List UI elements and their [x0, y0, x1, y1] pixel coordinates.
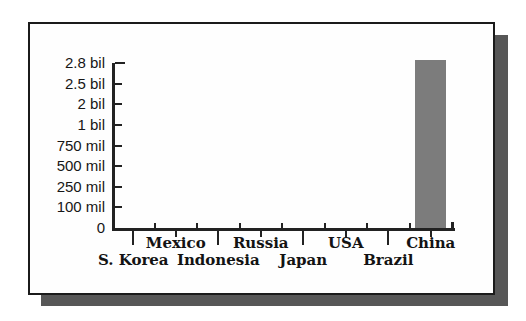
- x-category-label-russia: Russia: [233, 234, 289, 252]
- x-axis-boundary-tick: [324, 223, 326, 228]
- x-axis-boundary-tick: [366, 223, 368, 228]
- x-category-label-indonesia: Indonesia: [177, 251, 260, 269]
- x-axis-leader-tick: [302, 231, 304, 245]
- y-tick-label: 2.8 bil: [30, 54, 105, 72]
- x-category-label-mexico: Mexico: [146, 234, 206, 252]
- y-axis-tick: [115, 145, 122, 147]
- y-axis-tick: [115, 83, 122, 85]
- y-tick-label: 0: [30, 219, 105, 237]
- x-axis-leader-tick: [387, 231, 389, 245]
- x-category-label-s-korea: S. Korea: [98, 251, 169, 269]
- y-axis-tick: [115, 186, 122, 188]
- y-tick-label: 1 bil: [30, 116, 105, 134]
- x-category-label-usa: USA: [328, 234, 364, 252]
- y-tick-label: 100 mil: [30, 198, 105, 216]
- x-axis-leader-tick: [132, 231, 134, 245]
- bar-china: [415, 60, 446, 228]
- x-category-label-brazil: Brazil: [363, 251, 413, 269]
- x-axis-boundary-tick: [281, 223, 283, 228]
- y-axis-tick: [115, 124, 122, 126]
- x-axis-boundary-tick: [154, 223, 156, 228]
- x-axis-leader-tick: [217, 231, 219, 245]
- y-tick-label: 750 mil: [30, 137, 105, 155]
- page-background: 2.8 bil2.5 bil2 bil1 bil750 mil500 mil25…: [0, 0, 526, 321]
- y-axis-tick: [115, 62, 125, 64]
- x-axis-end-tick: [451, 222, 454, 228]
- x-axis-line: [112, 228, 455, 231]
- chart-panel: 2.8 bil2.5 bil2 bil1 bil750 mil500 mil25…: [28, 22, 495, 295]
- x-category-label-china: China: [406, 234, 455, 252]
- y-axis-tick: [115, 165, 122, 167]
- y-axis-tick: [115, 206, 122, 208]
- x-axis-boundary-tick: [239, 223, 241, 228]
- y-tick-label: 250 mil: [30, 178, 105, 196]
- x-category-label-japan: Japan: [279, 251, 327, 269]
- y-axis-tick: [115, 103, 122, 105]
- y-tick-label: 2 bil: [30, 95, 105, 113]
- x-axis-boundary-tick: [196, 223, 198, 228]
- x-axis-boundary-tick: [409, 223, 411, 228]
- y-tick-label: 2.5 bil: [30, 75, 105, 93]
- y-tick-label: 500 mil: [30, 157, 105, 175]
- bar-chart: 2.8 bil2.5 bil2 bil1 bil750 mil500 mil25…: [30, 24, 489, 289]
